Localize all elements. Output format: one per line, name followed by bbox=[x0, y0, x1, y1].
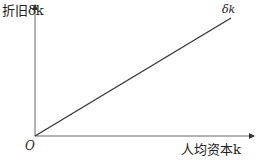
depreciation-line bbox=[35, 18, 231, 136]
origin-label: O bbox=[25, 140, 35, 152]
depreciation-diagram bbox=[0, 0, 260, 160]
line-label: δk bbox=[222, 4, 235, 15]
y-axis-label: 折旧δk bbox=[2, 4, 44, 17]
x-axis-label: 人均资本k bbox=[181, 143, 241, 156]
